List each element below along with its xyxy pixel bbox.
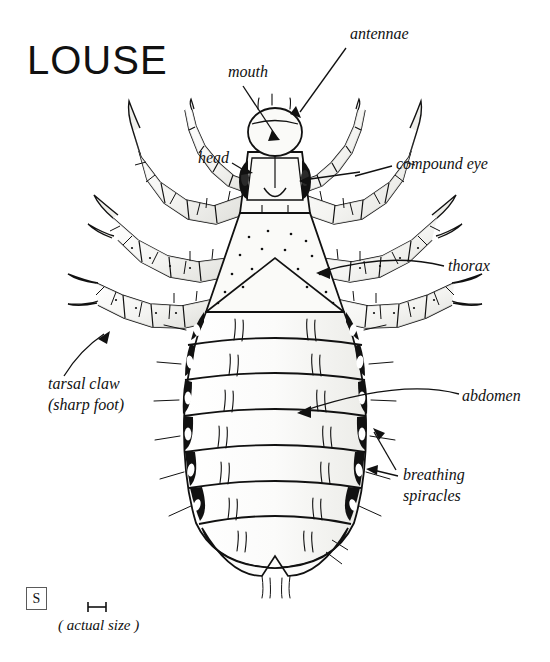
leg-right-rear — [338, 274, 482, 328]
label-breathing-spiracles-line1: breathing — [403, 465, 465, 485]
size-indicator-badge: S — [26, 587, 47, 610]
scale-bar — [88, 602, 106, 612]
label-compound-eye: compound eye — [396, 154, 488, 174]
leg-left-rear — [68, 274, 212, 328]
abdomen — [154, 312, 396, 598]
label-tarsal-claw-line2: (sharp foot) — [48, 395, 124, 415]
leader-antennae — [300, 48, 346, 112]
leader-compound-eye — [355, 166, 392, 176]
compound-eye-left — [239, 160, 249, 200]
label-tarsal-claw-line1: tarsal claw — [48, 374, 120, 394]
label-head: head — [198, 148, 229, 168]
illustration-page: LOUSE antennae mouth head compound eye t… — [0, 0, 550, 662]
louse-illustration — [0, 0, 550, 662]
label-breathing-spiracles-line2: spiracles — [403, 486, 461, 506]
page-title: LOUSE — [27, 40, 168, 80]
leader-spiracle-lower — [374, 432, 396, 470]
leader-tarsal-claw — [64, 334, 104, 376]
thorax — [206, 213, 344, 312]
label-abdomen: abdomen — [462, 386, 521, 406]
label-antennae: antennae — [350, 24, 409, 44]
label-thorax: thorax — [448, 256, 490, 276]
label-mouth: mouth — [228, 62, 268, 82]
louse-body-group — [64, 48, 482, 612]
actual-size-caption: ( actual size ) — [58, 617, 139, 634]
